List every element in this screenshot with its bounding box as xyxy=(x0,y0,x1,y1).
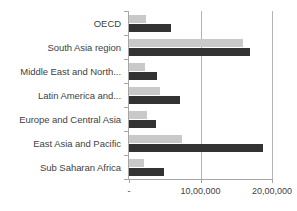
category-axis: OECD South Asia region Middle East and N… xyxy=(0,11,126,179)
value-axis-label: - xyxy=(128,186,131,197)
gridline xyxy=(272,11,273,179)
category-label-east-asia-and-pacific: East Asia and Pacific xyxy=(0,131,126,155)
bar xyxy=(129,87,160,95)
bar xyxy=(129,24,171,32)
bar-group xyxy=(129,155,272,179)
bar xyxy=(129,120,156,128)
category-label-middle-east-and-north: Middle East and North... xyxy=(0,59,126,83)
value-axis-label: 20,00,000 xyxy=(252,186,292,197)
bar xyxy=(129,63,145,71)
bar xyxy=(129,15,146,23)
value-axis-tick xyxy=(201,179,202,183)
bar xyxy=(129,159,144,167)
category-label-europe-and-central-asia: Europe and Central Asia xyxy=(0,107,126,131)
bar-group xyxy=(129,107,272,131)
bar-group xyxy=(129,11,272,35)
bar-group xyxy=(129,131,272,155)
value-axis-label: 10,00,000 xyxy=(180,186,220,197)
bar-group xyxy=(129,35,272,59)
value-axis-tick xyxy=(129,179,130,183)
bar-group xyxy=(129,59,272,83)
bar xyxy=(129,135,182,143)
bar xyxy=(129,39,243,47)
category-label-south-asia-region: South Asia region xyxy=(0,35,126,59)
bar xyxy=(129,111,147,119)
category-label-sub-saharan-africa: Sub Saharan Africa xyxy=(0,155,126,179)
bar xyxy=(129,96,180,104)
bar xyxy=(129,48,250,56)
bar-group xyxy=(129,83,272,107)
bar-chart: OECD South Asia region Middle East and N… xyxy=(0,0,297,211)
bar xyxy=(129,72,157,80)
value-axis-tick xyxy=(272,179,273,183)
bar xyxy=(129,144,263,152)
category-label-oecd: OECD xyxy=(0,11,126,35)
category-label-latin-america-and: Latin America and... xyxy=(0,83,126,107)
bar xyxy=(129,168,164,176)
plot-area xyxy=(129,11,272,179)
